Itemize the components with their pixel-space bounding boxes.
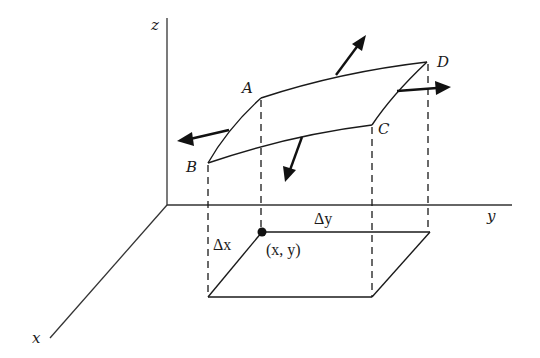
surface-edge-AD bbox=[261, 62, 427, 98]
base-point-dot bbox=[258, 228, 267, 237]
down-normal-arrow bbox=[290, 137, 302, 170]
diagram-canvas: z y x A B C D Δy Δx (x, y) bbox=[0, 0, 540, 358]
delta-y-label: Δy bbox=[314, 210, 332, 228]
corner-label-A: A bbox=[240, 79, 253, 97]
x-axis bbox=[50, 205, 167, 338]
projection-lines bbox=[208, 64, 428, 297]
left-normal-arrowhead bbox=[177, 132, 194, 146]
base-point-label: (x, y) bbox=[266, 241, 301, 259]
surface-patch bbox=[208, 62, 427, 163]
base-rectangle bbox=[208, 232, 430, 297]
z-axis-label: z bbox=[150, 16, 159, 34]
corner-label-B: B bbox=[185, 158, 197, 176]
corner-label-D: D bbox=[436, 53, 449, 71]
surface-edge-DC bbox=[372, 62, 427, 125]
down-normal-arrowhead bbox=[283, 166, 296, 182]
delta-x-label: Δx bbox=[213, 236, 231, 253]
base-edge-right bbox=[372, 232, 430, 297]
surface-edge-AB bbox=[208, 98, 261, 163]
corner-label-C: C bbox=[378, 120, 390, 138]
y-axis-label: y bbox=[486, 207, 496, 225]
right-normal-arrow bbox=[397, 88, 437, 91]
right-normal-arrowhead bbox=[435, 81, 451, 95]
x-axis-label: x bbox=[32, 329, 41, 347]
surface-edge-BC bbox=[208, 125, 372, 163]
left-normal-arrow bbox=[190, 130, 229, 139]
up-normal-arrow bbox=[336, 44, 359, 75]
